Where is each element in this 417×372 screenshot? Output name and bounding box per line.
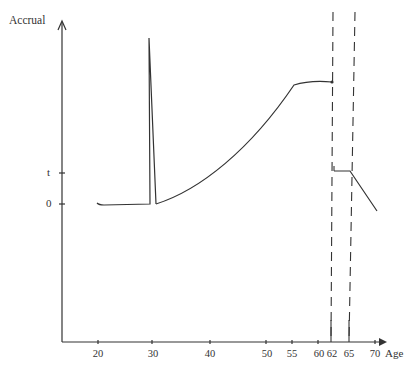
x-tick-label-60: 60	[314, 348, 325, 359]
x-tick-label-20: 20	[93, 348, 104, 359]
x-tick-label-40: 40	[205, 348, 216, 359]
x-axis-label: Age	[385, 347, 403, 359]
x-tick-label-50: 50	[262, 348, 273, 359]
accrual-curve-post62	[334, 171, 377, 211]
x-tick-label-62: 62	[327, 348, 338, 359]
accrual-curve-rise	[156, 81, 332, 204]
chart-canvas	[0, 0, 417, 372]
y-axis-label: Accrual	[9, 14, 45, 26]
x-tick-label-65: 65	[344, 348, 355, 359]
accrual-curve	[97, 38, 156, 205]
x-tick-label-70: 70	[370, 348, 381, 359]
dashed-line-age-62	[331, 12, 333, 342]
x-axis-arrow-icon	[379, 338, 387, 346]
y-tick-label-0: 0	[46, 197, 52, 209]
x-tick-label-55: 55	[287, 348, 298, 359]
y-tick-label-t: t	[47, 166, 50, 178]
x-tick-label-30: 30	[148, 348, 159, 359]
